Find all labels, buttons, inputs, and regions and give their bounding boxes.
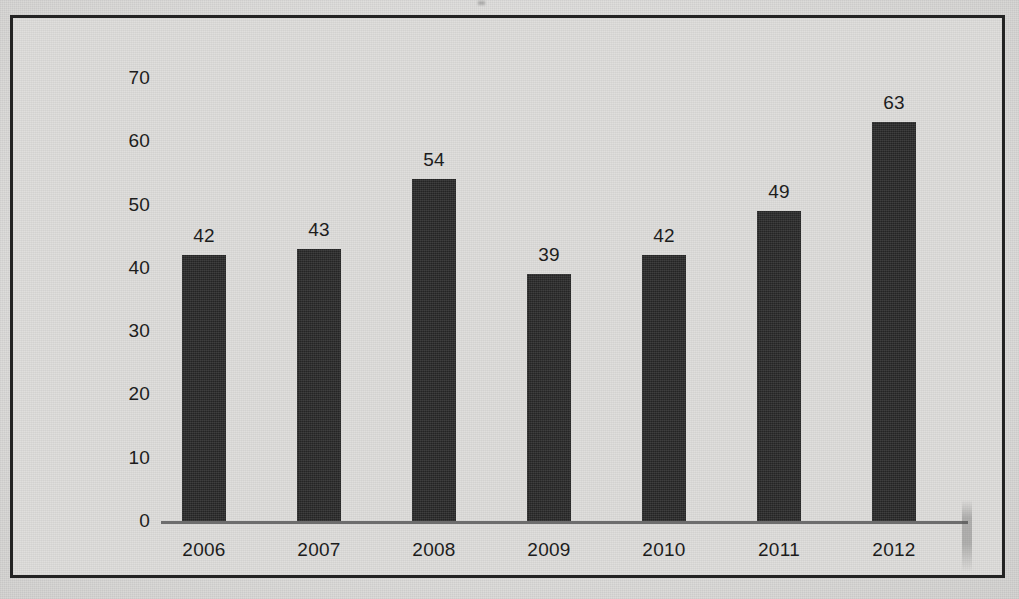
scan-speck-artifact bbox=[478, 1, 485, 5]
x-axis-tick-2008: 2008 bbox=[389, 539, 479, 561]
bar-value-label-2010: 42 bbox=[629, 225, 699, 247]
y-axis-tick-70: 70 bbox=[128, 67, 150, 89]
x-axis-tick-2007: 2007 bbox=[274, 539, 364, 561]
x-axis-tick-2012: 2012 bbox=[849, 539, 939, 561]
bar-2012[interactable] bbox=[872, 122, 916, 521]
plot-area: 010203040506070 42435439424963 200620072… bbox=[13, 18, 1002, 575]
bar-value-label-2011: 49 bbox=[744, 181, 814, 203]
bar-2008[interactable] bbox=[412, 179, 456, 521]
bar-value-label-2012: 63 bbox=[859, 92, 929, 114]
bar-2007[interactable] bbox=[297, 249, 341, 521]
bar-2010[interactable] bbox=[642, 255, 686, 521]
x-axis-tick-2009: 2009 bbox=[504, 539, 594, 561]
x-axis-baseline bbox=[161, 521, 968, 524]
y-axis-tick-labels: 010203040506070 bbox=[108, 18, 150, 575]
x-axis-tick-2011: 2011 bbox=[734, 539, 824, 561]
y-axis-tick-60: 60 bbox=[128, 130, 150, 152]
y-axis-tick-0: 0 bbox=[139, 510, 150, 532]
chart-page: 010203040506070 42435439424963 200620072… bbox=[0, 0, 1019, 599]
bar-value-label-2008: 54 bbox=[399, 149, 469, 171]
chart-frame: 010203040506070 42435439424963 200620072… bbox=[10, 15, 1005, 578]
x-axis-tick-2010: 2010 bbox=[619, 539, 709, 561]
y-axis-tick-40: 40 bbox=[128, 257, 150, 279]
y-axis-tick-50: 50 bbox=[128, 194, 150, 216]
x-axis-tick-2006: 2006 bbox=[159, 539, 249, 561]
bar-value-label-2007: 43 bbox=[284, 219, 354, 241]
bar-2011[interactable] bbox=[757, 211, 801, 521]
bar-2009[interactable] bbox=[527, 274, 571, 521]
y-axis-tick-30: 30 bbox=[128, 320, 150, 342]
bar-2006[interactable] bbox=[182, 255, 226, 521]
bar-value-label-2006: 42 bbox=[169, 225, 239, 247]
bar-value-label-2009: 39 bbox=[514, 244, 584, 266]
y-axis-tick-20: 20 bbox=[128, 383, 150, 405]
y-axis-tick-10: 10 bbox=[128, 447, 150, 469]
